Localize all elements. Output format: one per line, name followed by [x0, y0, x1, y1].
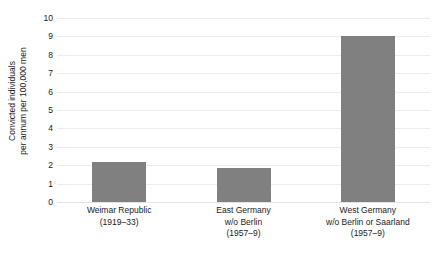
x-axis-tick-label-line: (1957–9) — [326, 228, 410, 240]
x-axis-tick-label: West Germanyw/o Berlin or Saarland(1957–… — [326, 205, 410, 240]
x-axis-tick-label-line: w/o Berlin or Saarland — [326, 217, 410, 229]
x-axis-tick-label-line: Weimar Republic — [87, 205, 152, 217]
x-axis-tick-label-line: (1957–9) — [216, 228, 270, 240]
y-axis-tick-label: 5 — [37, 106, 53, 115]
bar-chart-figure: Convicted individuals per annum per 100,… — [0, 0, 446, 256]
y-axis-tick-label: 0 — [37, 198, 53, 207]
x-axis-tick-labels: Weimar Republic(1919–33)East Germanyw/o … — [57, 205, 430, 255]
y-axis-tick-label: 4 — [37, 124, 53, 133]
gridline — [57, 18, 430, 19]
x-axis-tick-label-line: East Germany — [216, 205, 270, 217]
x-axis-tick-label-line: West Germany — [326, 205, 410, 217]
x-axis-tick-label-line: w/o Berlin — [216, 217, 270, 229]
bar — [341, 36, 395, 202]
y-axis-tick-label: 8 — [37, 50, 53, 59]
bar — [92, 162, 146, 202]
gridline — [57, 202, 430, 203]
x-axis-tick-label: Weimar Republic(1919–33) — [87, 205, 152, 228]
y-axis-tick-label: 10 — [37, 14, 53, 23]
y-axis-tick-label: 7 — [37, 69, 53, 78]
y-axis-tick-label: 2 — [37, 161, 53, 170]
y-axis-tick-label: 3 — [37, 142, 53, 151]
plot-area — [57, 18, 430, 202]
y-axis-tick-label: 6 — [37, 87, 53, 96]
y-axis-tick-label: 9 — [37, 32, 53, 41]
x-axis-tick-label-line: (1919–33) — [87, 217, 152, 229]
y-axis-tick-label: 1 — [37, 179, 53, 188]
x-axis-tick-label: East Germanyw/o Berlin(1957–9) — [216, 205, 270, 240]
y-axis-title: Convicted individuals per annum per 100,… — [0, 0, 36, 202]
bar — [217, 168, 271, 202]
y-axis-title-line-2: per annum per 100,000 men — [18, 47, 29, 154]
y-axis-tick-labels: 109876543210 — [36, 18, 53, 202]
y-axis-title-line-1: Convicted individuals — [7, 47, 18, 154]
